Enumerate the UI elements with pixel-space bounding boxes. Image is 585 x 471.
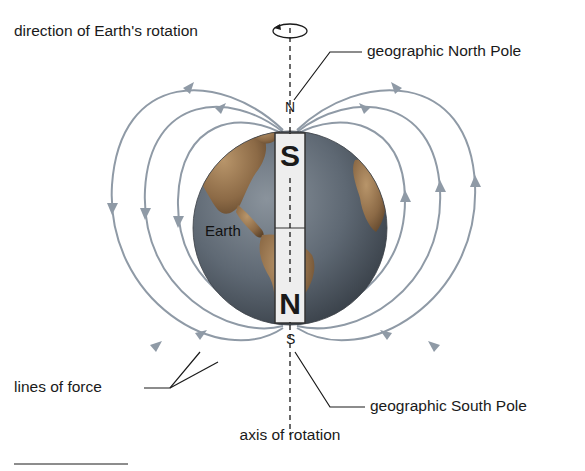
arrow-icon	[215, 103, 226, 114]
arrow-icon	[107, 203, 118, 215]
north-pole-label: geographic North Pole	[367, 42, 521, 59]
arrow-icon	[150, 341, 162, 352]
earth-magnetic-field-diagram: S N N S direction of Earth's rotation ge…	[0, 0, 585, 471]
arrow-icon	[359, 103, 370, 114]
south-pole-leader	[295, 352, 365, 407]
bar-magnet: S N	[275, 133, 305, 323]
magnet-bottom-letter: N	[279, 287, 301, 320]
arrow-icon	[470, 175, 481, 187]
earth-label: Earth	[205, 222, 241, 239]
arrow-icon	[391, 82, 402, 94]
lines-of-force-leader-2	[170, 362, 218, 388]
arrow-icon	[183, 82, 194, 94]
lines-of-force-label: lines of force	[14, 378, 102, 395]
arrow-icon	[380, 330, 392, 340]
arrow-icon	[140, 208, 151, 220]
north-pole-letter: N	[285, 99, 295, 115]
magnet-top-letter: S	[280, 139, 300, 172]
arrow-icon	[400, 190, 411, 202]
rotation-direction-label: direction of Earth's rotation	[14, 22, 198, 39]
south-pole-label: geographic South Pole	[370, 397, 527, 414]
axis-of-rotation-label: axis of rotation	[240, 426, 341, 443]
south-pole-letter: S	[286, 331, 295, 347]
lines-of-force-leader-1	[144, 352, 200, 388]
north-pole-leader	[294, 52, 362, 100]
arrow-icon	[428, 341, 440, 352]
arrow-icon	[435, 180, 446, 192]
arrow-icon	[173, 216, 184, 228]
